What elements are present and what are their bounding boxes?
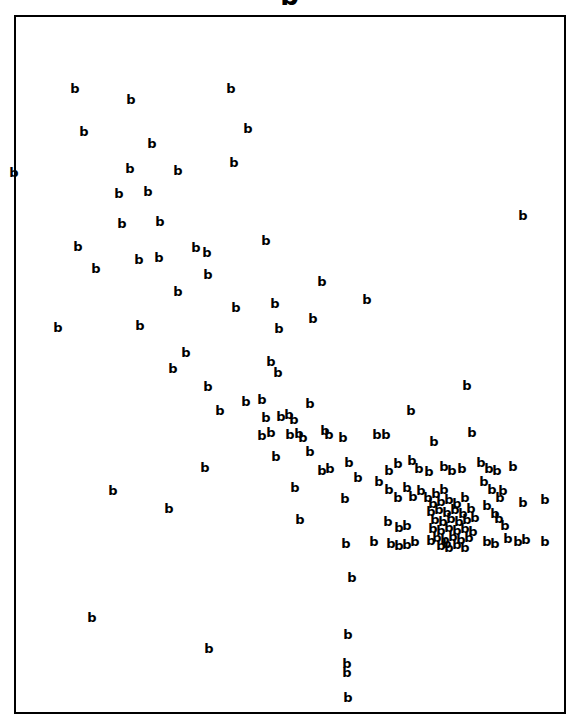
chart-title: b bbox=[0, 0, 580, 9]
plot-frame bbox=[14, 15, 566, 714]
scatter-plot-figure: b bbbbbbbbbbbbbbbbbbbbbbbbbbbbbbbbbbbbbb… bbox=[0, 0, 580, 723]
